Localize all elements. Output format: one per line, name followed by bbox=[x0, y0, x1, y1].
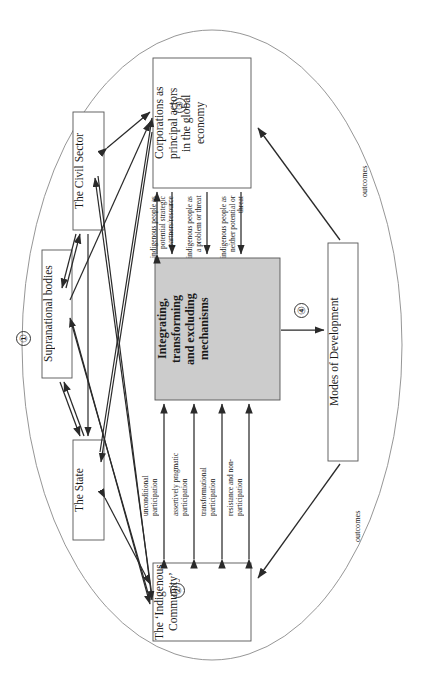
edge-civil-corporations bbox=[107, 112, 150, 148]
node-label-mechanisms: Integrating, transforming and excluding … bbox=[155, 258, 280, 400]
edge-label-outcomes-top: outcomes bbox=[360, 150, 374, 212]
diagram-canvas: { "diagram": { "title_visible": false, "… bbox=[0, 0, 426, 696]
node-marker-indigenous: ② bbox=[170, 583, 185, 598]
node-label-state: The State bbox=[73, 440, 104, 540]
node-label-civil-sector: The Civil Sector bbox=[73, 112, 104, 230]
edge-label-outcomes-bottom: outcomes bbox=[353, 495, 367, 557]
edge-label-transformational-participation: transformational participation bbox=[200, 440, 222, 516]
node-marker-corporations: ③ bbox=[172, 98, 187, 113]
boundary-marker-1: ① bbox=[16, 331, 31, 346]
node-label-modes: Modes of Development bbox=[328, 243, 358, 461]
node-label-corporations: Corporations as principal actors in the … bbox=[153, 58, 251, 188]
edge-label-potential-strategic-partners: indigenous people as potential strategic… bbox=[150, 196, 176, 258]
node-label-supranational: Supranational bodies bbox=[42, 250, 72, 378]
edge-label-assertively-pragmatic-participation: assertively pragmatic participation bbox=[172, 440, 194, 516]
node-marker-mechanisms: ④ bbox=[294, 303, 309, 318]
edge-label-neither-potential-or-threat: indigenous people as neither potential o… bbox=[220, 196, 244, 258]
edge-modes-to-indigenous-outcome bbox=[258, 464, 340, 578]
edge-label-problem-or-threat: indigenous people as a problem or threat bbox=[186, 196, 208, 258]
edge-modes-to-corporations-outcome bbox=[258, 128, 340, 240]
edge-label-unconditional-participation: unconditional participation bbox=[142, 440, 164, 516]
edge-label-resistance-and-non-participation: resistance and non- participation bbox=[227, 440, 249, 516]
edge-supranational-state bbox=[60, 382, 84, 436]
node-label-indigenous: The ‘Indigenous Community’ bbox=[153, 563, 251, 641]
